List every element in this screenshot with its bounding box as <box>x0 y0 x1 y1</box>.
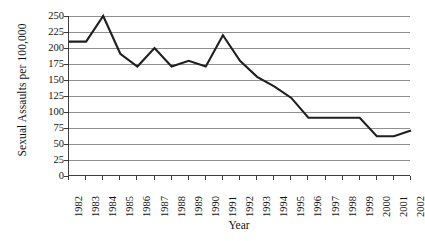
x-axis-tick-label: 2002 <box>415 181 425 217</box>
y-axis-tick-label: 50 <box>34 139 64 150</box>
x-axis-tick-mark <box>359 176 360 180</box>
x-axis-tick-mark <box>307 176 308 180</box>
x-axis-tick-label: 1982 <box>73 181 85 217</box>
x-axis-tick-label: 1983 <box>90 181 102 217</box>
y-axis-tick-label: 250 <box>34 11 64 22</box>
y-axis-tick-label: 25 <box>34 155 64 166</box>
x-axis-tick-mark <box>239 176 240 180</box>
x-axis-tick-label: 1989 <box>193 181 205 217</box>
y-axis-tick-label: 0 <box>34 171 64 182</box>
x-axis-tick-label: 1993 <box>261 181 273 217</box>
x-axis-tick-mark <box>171 176 172 180</box>
x-axis-tick-mark <box>410 176 411 180</box>
x-axis-title: Year <box>68 219 410 231</box>
x-axis-tick-mark <box>273 176 274 180</box>
x-axis-tick-label: 1991 <box>227 181 239 217</box>
x-axis-tick-mark <box>376 176 377 180</box>
x-axis-tick-label: 1984 <box>107 181 119 217</box>
x-axis-tick-label: 1988 <box>176 181 188 217</box>
x-axis-tick-mark <box>119 176 120 180</box>
x-axis-tick-labels: 1982198319841985198619871988198919901991… <box>68 181 410 217</box>
x-axis-tick-mark <box>290 176 291 180</box>
y-axis-tick-label: 200 <box>34 43 64 54</box>
x-axis-tick-label: 1985 <box>124 181 136 217</box>
x-axis-tick-label: 1997 <box>330 181 342 217</box>
x-axis-tick-mark <box>342 176 343 180</box>
x-axis-tick-mark <box>393 176 394 180</box>
y-axis-tick-label: 75 <box>34 123 64 134</box>
x-axis-tick-mark <box>188 176 189 180</box>
x-axis-tick-mark <box>222 176 223 180</box>
x-axis-tick-mark <box>154 176 155 180</box>
x-axis-tick-mark <box>102 176 103 180</box>
x-axis-tick-label: 1986 <box>141 181 153 217</box>
y-axis-tick-labels: 0255075100125150175200225250 <box>30 16 64 176</box>
x-axis-tick-label: 1996 <box>312 181 324 217</box>
x-axis-tick-mark <box>205 176 206 180</box>
y-axis-tick-label: 125 <box>34 91 64 102</box>
x-axis-tick-label: 1995 <box>295 181 307 217</box>
x-axis-tick-label: 1987 <box>159 181 171 217</box>
y-axis-tick-label: 100 <box>34 107 64 118</box>
x-axis-tick-label: 1999 <box>364 181 376 217</box>
x-axis-tick-mark <box>136 176 137 180</box>
plot-area <box>68 16 410 176</box>
x-axis-tick-label: 1992 <box>244 181 256 217</box>
x-axis-tick-label: 2000 <box>381 181 393 217</box>
y-axis-tick-label: 175 <box>34 59 64 70</box>
chart-container: Sexual Assaults per 100,000 025507510012… <box>0 0 425 241</box>
y-axis-tick-label: 150 <box>34 75 64 86</box>
y-axis-tick-label: 225 <box>34 27 64 38</box>
x-axis-tick-mark <box>325 176 326 180</box>
x-axis-tick-mark <box>85 176 86 180</box>
x-axis-tick-label: 1990 <box>210 181 222 217</box>
x-axis-tick-label: 1998 <box>347 181 359 217</box>
x-axis-tick-mark <box>256 176 257 180</box>
x-axis-tick-label: 1994 <box>278 181 290 217</box>
x-axis-tick-mark <box>68 176 69 180</box>
x-axis-tick-label: 2001 <box>398 181 410 217</box>
data-line-series <box>69 16 411 176</box>
